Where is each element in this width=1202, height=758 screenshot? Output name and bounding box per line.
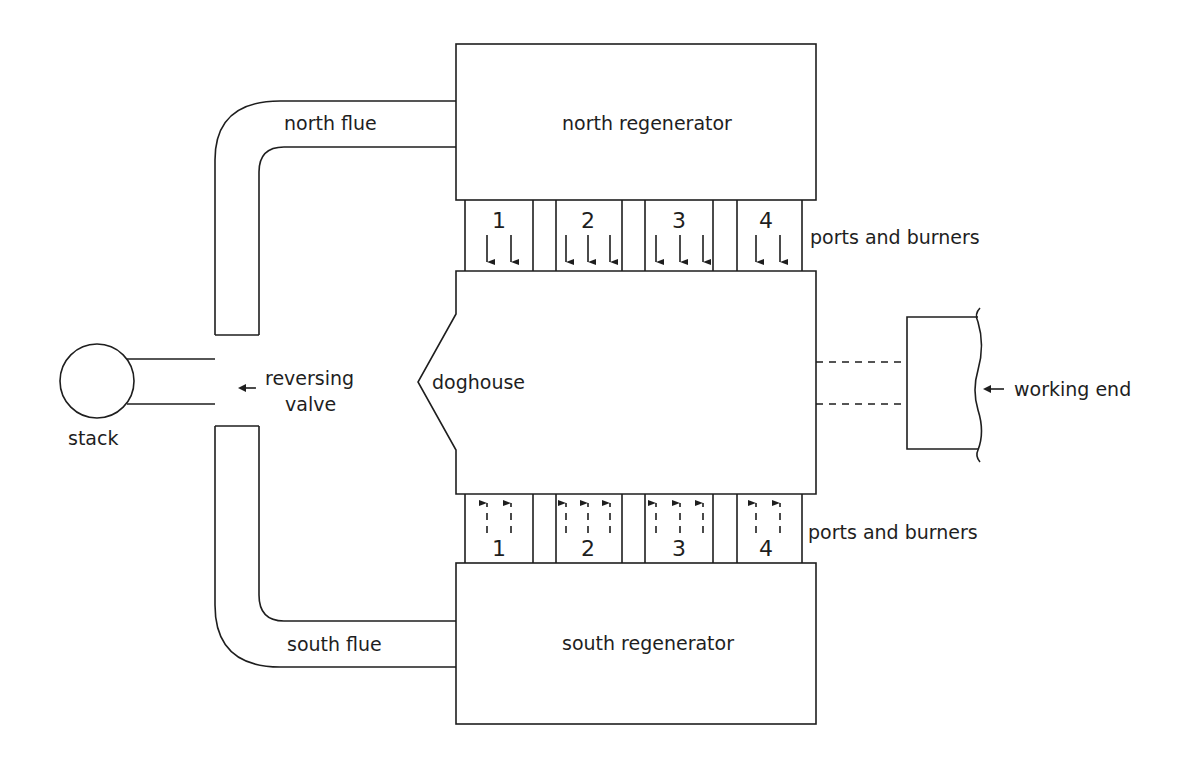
working-end-arrow-icon (983, 385, 991, 393)
furnace-diagram: north flue south flue reversing valve st… (0, 0, 1202, 758)
stack: stack (60, 344, 215, 449)
south-ports-label: ports and burners (808, 521, 978, 543)
north-port-1-number: 1 (492, 208, 506, 233)
south-regenerator: south regenerator (456, 563, 816, 724)
reversing-valve: reversing valve (215, 335, 354, 426)
north-port-4-number: 4 (759, 208, 773, 233)
melting-furnace: doghouse (418, 271, 816, 494)
south-ports: 1 2 3 4 ports and burners (465, 494, 978, 563)
north-regenerator-label: north regenerator (562, 112, 732, 134)
north-port-3-number: 3 (672, 208, 686, 233)
north-flue-label: north flue (284, 112, 377, 134)
south-port-4-number: 4 (759, 536, 773, 561)
throat (816, 362, 907, 404)
doghouse-label: doghouse (432, 371, 525, 393)
south-flue: south flue (215, 426, 456, 667)
working-end-label: working end (1014, 378, 1131, 400)
valve-arrow-icon (238, 384, 246, 392)
reversing-valve-label-1: reversing (265, 367, 354, 389)
north-regenerator: north regenerator (456, 44, 816, 200)
north-ports: 1 2 3 4 ports and burners (465, 200, 980, 271)
working-end: working end (907, 308, 1131, 462)
south-flue-label: south flue (287, 633, 382, 655)
south-port-1-number: 1 (492, 536, 506, 561)
south-flow-arrows (487, 503, 780, 533)
north-flow-arrows (487, 235, 780, 262)
south-regenerator-label: south regenerator (562, 632, 734, 654)
north-ports-label: ports and burners (810, 226, 980, 248)
stack-label: stack (68, 427, 118, 449)
reversing-valve-label-2: valve (285, 393, 336, 415)
south-port-2-number: 2 (581, 536, 595, 561)
south-port-3-number: 3 (672, 536, 686, 561)
north-flue: north flue (215, 101, 456, 335)
north-port-2-number: 2 (581, 208, 595, 233)
